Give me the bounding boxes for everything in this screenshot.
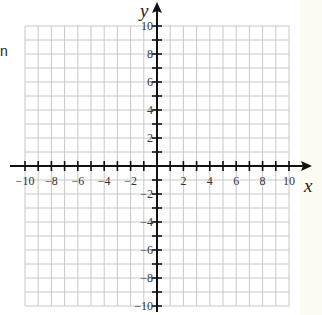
y-tick-label: −10	[134, 299, 153, 313]
axes	[10, 2, 312, 312]
y-tick-label: −2	[140, 187, 153, 201]
x-tick-label: 8	[260, 174, 266, 188]
x-tick-label: −6	[71, 174, 84, 188]
x-axis-label: x	[303, 175, 313, 196]
x-tick-label: −8	[45, 174, 58, 188]
x-tick-label: −2	[124, 174, 137, 188]
y-tick-label: 8	[147, 47, 153, 61]
x-tick-label: −10	[16, 174, 35, 188]
y-tick-label: 6	[147, 75, 153, 89]
y-tick-label: −4	[140, 215, 153, 229]
y-tick-label: 10	[141, 19, 153, 33]
y-axis-label: y	[138, 0, 149, 21]
y-tick-label: 2	[147, 131, 153, 145]
y-tick-label: −8	[140, 271, 153, 285]
x-tick-label: 6	[233, 174, 239, 188]
x-tick-label: 10	[283, 174, 295, 188]
y-tick-label: 4	[147, 103, 153, 117]
x-tick-label: −4	[98, 174, 111, 188]
x-tick-label: 4	[207, 174, 213, 188]
y-tick-label: −6	[140, 243, 153, 257]
coordinate-plane: −10−8−6−4−2246810108642−2−4−6−8−10 x y	[0, 0, 322, 315]
x-tick-label: 2	[180, 174, 186, 188]
